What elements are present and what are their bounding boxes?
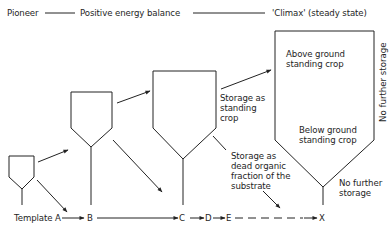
leader-c-dead	[213, 136, 226, 150]
label-above-ground-2: standing crop	[286, 59, 344, 69]
label-above-ground-1: Above ground	[286, 49, 345, 59]
label-storage-dead-1: Storage as	[231, 151, 276, 161]
label-storage-dead-2: dead organic	[231, 161, 286, 171]
label-storage-standing-1: Storage as	[220, 93, 265, 103]
seq-b: B	[87, 213, 93, 223]
seq-template-a: Template A	[14, 213, 61, 223]
arrow-b-down	[113, 140, 162, 192]
label-no-further-storage-1: No further	[339, 178, 382, 188]
label-storage-standing-3: crop	[220, 113, 238, 123]
label-no-further-storage-2: storage	[339, 188, 371, 198]
label-below-ground-2: standing crop	[299, 135, 357, 145]
seq-e: E	[226, 213, 231, 223]
arrow-c-to-climax	[221, 70, 271, 89]
vessel-c	[153, 71, 216, 159]
label-pioneer: Pioneer	[7, 8, 39, 18]
vessel-a	[9, 156, 34, 189]
seq-x: X	[319, 213, 325, 223]
label-storage-standing-2: standing	[220, 103, 257, 113]
label-below-ground-1: Below ground	[299, 125, 357, 135]
vessel-b	[71, 92, 112, 147]
label-climax: 'Climax' (steady state)	[272, 8, 367, 18]
arrow-a-down	[37, 180, 67, 212]
label-storage-dead-3: fraction of the	[231, 171, 290, 181]
succession-diagram	[0, 0, 392, 231]
arrow-b-to-c	[117, 91, 150, 103]
label-storage-dead-4: substrate	[231, 181, 271, 191]
seq-d: D	[205, 213, 212, 223]
arrow-substrate	[263, 191, 280, 208]
label-no-further-storage-vertical: No further storage	[378, 43, 388, 122]
arrow-a-to-b	[38, 150, 68, 162]
seq-c: C	[179, 213, 185, 223]
label-positive-energy-balance: Positive energy balance	[80, 8, 180, 18]
